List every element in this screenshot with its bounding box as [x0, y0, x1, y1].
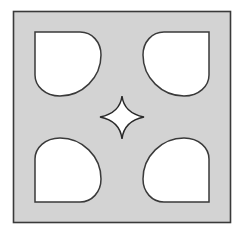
tile-diagram: [0, 0, 249, 232]
